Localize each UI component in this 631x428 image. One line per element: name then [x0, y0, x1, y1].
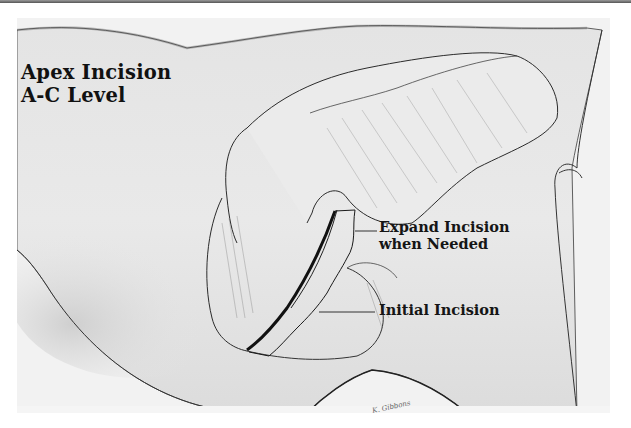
- title-line-2: A-C Level: [21, 84, 171, 107]
- top-rule: [0, 0, 631, 3]
- expand-label-line-2: when Needed: [379, 235, 510, 252]
- expand-incision-label: Expand Incision when Needed: [379, 218, 510, 252]
- expand-label-line-1: Expand Incision: [379, 218, 510, 235]
- figure-title: Apex Incision A-C Level: [21, 61, 171, 107]
- initial-incision-label: Initial Incision: [379, 301, 500, 318]
- title-line-1: Apex Incision: [21, 61, 171, 84]
- shoulder-illustration: Apex Incision A-C Level Expand Incision …: [17, 18, 610, 413]
